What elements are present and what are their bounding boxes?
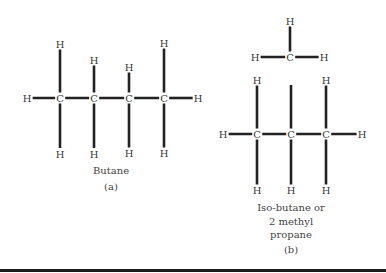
isobutane-h3-top: H <box>321 75 332 86</box>
isobutane-h3-bottom: H <box>321 185 332 196</box>
butane-h1-top: H <box>55 39 66 50</box>
butane-c3: C <box>124 93 134 104</box>
methyl-h-left: H <box>250 52 261 63</box>
butane-h3-bottom: H <box>124 148 135 159</box>
butane-c4: C <box>159 93 169 104</box>
butane-c2: C <box>89 93 99 104</box>
butane-h2-bottom: H <box>89 149 100 160</box>
isobutane-h2-bottom: H <box>286 185 297 196</box>
butane-h4-bottom: H <box>159 148 170 159</box>
isobutane-c2: C <box>286 129 296 140</box>
isobutane-name-line2: 2 methyl <box>269 216 313 227</box>
butane-h4-top: H <box>159 38 170 49</box>
panel-b-label: (b) <box>284 244 298 255</box>
panel-a-label: (a) <box>104 181 118 192</box>
isobutane-h-left: H <box>218 129 229 140</box>
isobutane-h1-top: H <box>252 75 263 86</box>
bottom-rule-divider <box>0 269 386 272</box>
methyl-c: C <box>285 52 295 63</box>
isobutane-name-line3: propane <box>270 229 312 240</box>
butane-h-left: H <box>22 93 33 104</box>
isobutane-c1: C <box>252 129 262 140</box>
structural-formula-figure: H C C C C H H H H H H H H H Butane (a) H… <box>0 0 386 273</box>
butane-h-right: H <box>193 93 204 104</box>
butane-h1-bottom: H <box>55 149 66 160</box>
isobutane-name-line1: Iso-butane or <box>257 202 325 213</box>
isobutane-c3: C <box>321 129 331 140</box>
butane-h2-top: H <box>89 55 100 66</box>
butane-c1: C <box>55 93 65 104</box>
butane-name: Butane <box>93 165 129 176</box>
methyl-h-top: H <box>285 16 296 27</box>
methyl-h-right: H <box>319 52 330 63</box>
isobutane-h1-bottom: H <box>252 185 263 196</box>
butane-h3-top: H <box>124 62 135 73</box>
isobutane-h-right: H <box>357 129 368 140</box>
